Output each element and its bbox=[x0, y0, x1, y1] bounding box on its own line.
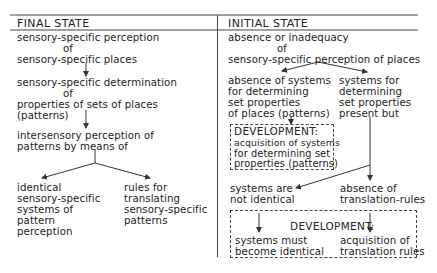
initial-absence-line1: absence or inadequacy bbox=[228, 32, 349, 43]
initial-absence-of: of bbox=[277, 43, 287, 54]
initial-left-branch-2: set properties bbox=[228, 97, 300, 108]
final-branch-right-3: patterns bbox=[124, 215, 168, 226]
initial-left-branch-0: absence of systems bbox=[228, 75, 331, 86]
final-branch-left-0: identical bbox=[17, 182, 61, 193]
initial-absence-line2: sensory-specific perception of places bbox=[228, 54, 420, 65]
final-intersensory-line1: intersensory perception of bbox=[17, 130, 154, 141]
development-2-left-0: systems must bbox=[235, 235, 307, 246]
absence-rules-line-1: translation-rules bbox=[340, 194, 425, 205]
final-branch-left-2: systems of bbox=[17, 204, 73, 215]
final-branch-left-3: pattern bbox=[17, 215, 55, 226]
final-branch-left-4: perception bbox=[17, 226, 73, 237]
initial-right-branch-2: set properties bbox=[339, 97, 411, 108]
initial-left-branch-3: of places (patterns) bbox=[228, 108, 330, 119]
final-determination-line3: (patterns) bbox=[17, 110, 69, 121]
final-intersensory-line2: patterns by means of bbox=[17, 141, 128, 152]
final-perception-of: of bbox=[63, 43, 73, 54]
initial-right-branch-0: systems for bbox=[339, 75, 399, 86]
final-perception-line1: sensory-specific perception bbox=[17, 32, 159, 43]
not-identical-line-0: systems are bbox=[230, 183, 293, 194]
final-determination-line1: sensory-specific determination bbox=[17, 77, 177, 88]
development-1-line-2: properties (patterns) bbox=[234, 158, 338, 169]
final-branch-right-0: rules for bbox=[124, 182, 167, 193]
final-state-header: FINAL STATE bbox=[17, 18, 90, 29]
final-branch-right-1: translating bbox=[124, 193, 180, 204]
development-2-right-0: acquisition of bbox=[340, 235, 410, 246]
final-determination-of: of bbox=[63, 88, 73, 99]
development-1-line-0: acquisition of systems bbox=[234, 137, 340, 148]
final-perception-line2: sensory-specific places bbox=[17, 54, 137, 65]
development-2-right-1: translation rules bbox=[340, 246, 425, 257]
initial-left-branch-1: for determining bbox=[228, 86, 309, 97]
initial-right-branch-3: present but bbox=[339, 108, 399, 119]
final-determination-line2: properties of sets of places bbox=[17, 99, 158, 110]
development-2-title: DEVELOPMENT: bbox=[290, 221, 375, 232]
not-identical-line-1: not identical bbox=[230, 194, 295, 205]
absence-rules-line-0: absence of bbox=[340, 183, 397, 194]
final-branch-right-2: sensory-specific bbox=[124, 204, 207, 215]
initial-right-branch-1: determining bbox=[339, 86, 402, 97]
development-2-left-1: become identical bbox=[235, 246, 324, 257]
final-branch-left-1: sensory-specific bbox=[17, 193, 100, 204]
initial-state-header: INITIAL STATE bbox=[228, 18, 308, 29]
development-1-title: DEVELOPMENT: bbox=[234, 126, 319, 137]
